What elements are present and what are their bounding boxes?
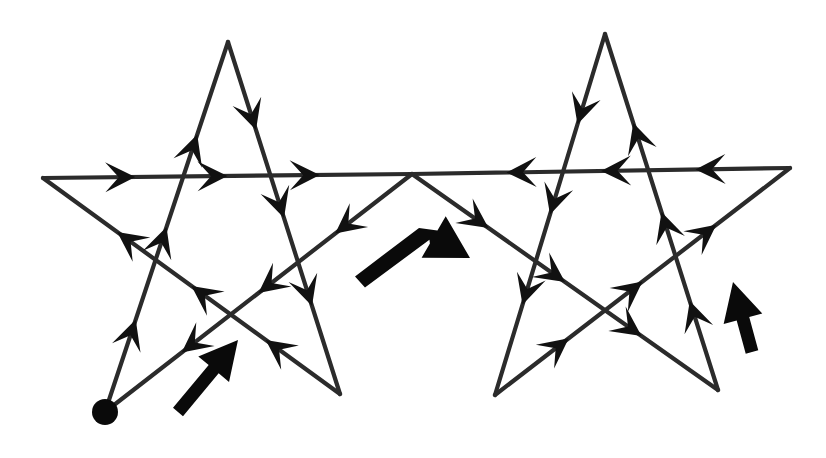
figure-canvas <box>0 0 826 458</box>
start-dot <box>92 399 118 425</box>
star-diagram-svg <box>0 0 826 458</box>
start-dot-marker <box>92 399 118 425</box>
